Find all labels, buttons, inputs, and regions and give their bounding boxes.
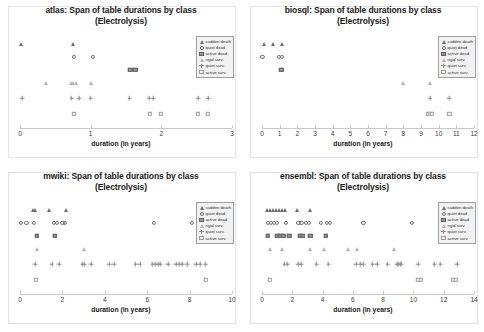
x-axis-tick: [368, 125, 369, 128]
data-point: [355, 247, 359, 251]
data-point: [32, 221, 36, 225]
data-point: [323, 234, 327, 238]
data-point: [419, 278, 423, 282]
marker-glyph-icon: [441, 52, 445, 56]
legend-label: quiet dead: [206, 211, 226, 216]
data-point: [55, 221, 59, 225]
legend-label: rigid surv.: [206, 223, 224, 228]
marker-circle-open-icon: [361, 221, 365, 225]
x-axis-tick-label: 2: [61, 296, 65, 303]
marker-triangle-filled-icon: [280, 42, 284, 46]
data-point: [301, 234, 305, 238]
data-point: [280, 247, 284, 251]
marker-plus-icon: [185, 262, 190, 267]
data-point: [33, 262, 38, 267]
x-axis-title: duration (in years): [242, 306, 484, 313]
legend-label: rigid surv.: [448, 57, 466, 62]
legend-marker-m-tri-icon: [441, 39, 446, 44]
marker-glyph-icon: [442, 58, 446, 62]
legend-marker-m-sq-open-icon: [441, 236, 446, 241]
marker-plus-icon: [432, 262, 437, 267]
x-axis-tick: [315, 125, 316, 128]
data-point: [392, 247, 396, 251]
x-axis-tick: [439, 125, 440, 128]
data-point: [47, 208, 51, 212]
data-point: [185, 262, 190, 267]
marker-square-open-icon: [430, 112, 434, 116]
data-point: [430, 112, 434, 116]
marker-square-filled-icon: [53, 234, 57, 238]
x-axis-tick: [323, 291, 324, 294]
marker-triangle-open-icon: [44, 81, 48, 85]
data-point: [107, 262, 112, 267]
legend-label: sudden death: [448, 39, 473, 44]
marker-plus-icon: [77, 96, 82, 101]
x-axis-tick-label: 9: [419, 130, 423, 137]
data-point: [280, 55, 284, 59]
marker-circle-open-icon: [299, 221, 303, 225]
marker-plus-icon: [399, 262, 404, 267]
data-point: [203, 262, 208, 267]
marker-glyph-icon: [199, 236, 203, 240]
marker-triangle-open-icon: [280, 247, 284, 251]
marker-plus-icon: [196, 96, 201, 101]
legend-label: sudden death: [206, 205, 231, 210]
marker-plus-icon: [82, 262, 87, 267]
marker-triangle-open-icon: [346, 247, 350, 251]
x-axis-tick: [421, 125, 422, 128]
data-point: [428, 81, 432, 85]
data-point: [375, 262, 380, 267]
marker-plus-icon: [50, 262, 55, 267]
marker-square-open-icon: [196, 112, 200, 116]
legend-item-active-dead: active dead: [199, 217, 231, 223]
marker-plus-icon: [206, 96, 211, 101]
marker-square-filled-icon: [266, 234, 270, 238]
x-axis-tick: [105, 291, 106, 294]
legend-marker-m-circ-icon: [199, 211, 204, 216]
x-axis-tick-label: 6: [145, 296, 149, 303]
marker-plus-icon: [20, 96, 25, 101]
data-point: [328, 221, 332, 225]
marker-triangle-filled-icon: [308, 208, 312, 212]
legend-marker-m-plus-icon: [199, 63, 204, 68]
chart-legend: sudden deathquiet deadactive deadrigid s…: [438, 202, 476, 244]
legend-label: active dead: [206, 217, 227, 222]
x-axis-tick-label: 1: [89, 130, 93, 137]
marker-glyph-icon: [200, 206, 204, 210]
marker-square-open-icon: [447, 112, 451, 116]
data-point: [74, 81, 78, 85]
x-axis-tick-label: 0: [260, 130, 264, 137]
legend-marker-m-sq-icon: [441, 217, 446, 222]
legend-label: quiet surv.: [206, 63, 225, 68]
marker-triangle-filled-icon: [283, 208, 287, 212]
marker-plus-icon: [158, 262, 163, 267]
x-axis-tick: [262, 291, 263, 294]
data-point: [112, 262, 117, 267]
x-axis-tick-label: 4: [103, 296, 107, 303]
marker-triangle-filled-icon: [64, 208, 68, 212]
x-axis-tick: [280, 125, 281, 128]
marker-square-open-icon: [454, 278, 458, 282]
data-point: [268, 247, 272, 251]
x-axis-tick: [413, 291, 414, 294]
data-point: [88, 96, 93, 101]
data-point: [454, 278, 458, 282]
marker-glyph-icon: [200, 46, 204, 50]
legend-item-sudden-death: sudden death: [199, 39, 231, 45]
marker-circle-open-icon: [151, 221, 155, 225]
marker-triangle-filled-icon: [262, 42, 266, 46]
x-axis-tick-label: 0: [18, 130, 22, 137]
x-axis-tick: [190, 291, 191, 294]
marker-plus-icon: [299, 262, 304, 267]
marker-circle-open-icon: [91, 55, 95, 59]
x-axis-tick-label: 12: [470, 130, 477, 137]
marker-circle-open-icon: [72, 55, 76, 59]
legend-marker-m-circ-icon: [441, 45, 446, 50]
marker-square-open-icon: [267, 278, 271, 282]
data-point: [196, 96, 201, 101]
chart-panel-ensembl: ensembl: Span of table durations by clas…: [242, 166, 484, 332]
data-point: [203, 278, 207, 282]
x-axis-tick: [353, 291, 354, 294]
figure-grid: atlas: Span of table durations by class(…: [0, 0, 484, 332]
data-point: [447, 96, 452, 101]
